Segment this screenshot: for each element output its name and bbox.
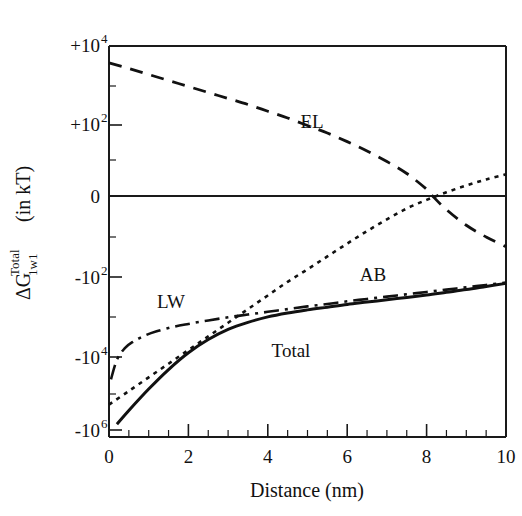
y-tick-exp-3: 2 — [101, 263, 108, 278]
y-tick-label-2: 0 — [91, 186, 101, 207]
chart-figure: +10 4 +10 2 0 -10 2 -10 4 -10 6 0 2 4 6 … — [0, 0, 522, 516]
y-tick-label-3: -10 — [75, 267, 100, 288]
y-tick-label-1: +10 — [70, 114, 100, 135]
y-axis-title-superscript: Total — [7, 249, 22, 276]
y-tick-exp-0: 4 — [101, 31, 108, 46]
plot-frame — [109, 46, 506, 437]
y-tick-label-5: -10 — [75, 420, 100, 441]
x-tick-labels: 0 2 4 6 8 10 — [104, 446, 515, 467]
y-axis-ticks — [109, 46, 122, 430]
x-tick-label-2: 4 — [263, 446, 273, 467]
y-tick-labels: +10 4 +10 2 0 -10 2 -10 4 -10 6 — [70, 31, 108, 441]
y-tick-exp-1: 2 — [101, 110, 108, 125]
y-tick-exp-5: 6 — [101, 416, 108, 431]
curve-label-el: EL — [300, 111, 323, 132]
curve-label-ab: AB — [360, 264, 386, 285]
curve-el — [109, 63, 506, 247]
x-axis-title: Distance (nm) — [250, 479, 364, 502]
y-tick-label-0: +10 — [70, 35, 100, 56]
x-axis-ticks — [109, 424, 506, 437]
y-tick-label-4: -10 — [75, 347, 100, 368]
x-tick-label-3: 6 — [342, 446, 352, 467]
x-tick-label-5: 10 — [497, 446, 516, 467]
curve-label-total: Total — [272, 340, 311, 361]
x-tick-label-0: 0 — [104, 446, 114, 467]
curve-label-lw: LW — [157, 291, 185, 312]
x-tick-label-1: 2 — [184, 446, 194, 467]
y-axis-title-units: (in kT) — [12, 166, 35, 222]
x-tick-label-4: 8 — [422, 446, 432, 467]
y-axis-title-group: ΔG 1w1 Total (in kT) — [7, 166, 40, 300]
y-tick-exp-4: 4 — [101, 343, 108, 358]
curve-annotations: EL AB LW Total — [157, 111, 386, 361]
y-axis-title-subscript: 1w1 — [25, 254, 40, 276]
plot-canvas: +10 4 +10 2 0 -10 2 -10 4 -10 6 0 2 4 6 … — [0, 0, 522, 516]
